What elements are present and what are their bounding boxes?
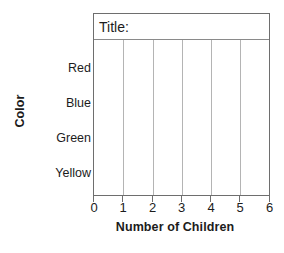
- x-tick-label-0: 0: [84, 200, 104, 216]
- x-tick-label-1: 1: [113, 200, 133, 216]
- y-axis-label-blue: Blue: [28, 96, 91, 110]
- y-axis-label-red: Red: [28, 61, 91, 75]
- y-axis-label-yellow: Yellow: [28, 166, 91, 180]
- gridline-5: [240, 40, 241, 195]
- y-axis-label-group: Red Blue Green Yellow: [28, 40, 91, 196]
- x-axis-title: Number of Children: [60, 220, 284, 234]
- x-tick-label-5: 5: [230, 200, 250, 216]
- x-axis-label-group: 0 1 2 3 4 5 6: [93, 200, 270, 218]
- gridline-3: [182, 40, 183, 195]
- y-axis-title: Color: [13, 79, 27, 143]
- title-field[interactable]: Title:: [94, 14, 269, 40]
- grid-body: [94, 40, 269, 195]
- gridline-2: [153, 40, 154, 195]
- bar-graph-worksheet: Color Red Blue Green Yellow Title: 0 1: [0, 0, 284, 253]
- x-tick-label-4: 4: [201, 200, 221, 216]
- x-tick-label-3: 3: [172, 200, 192, 216]
- gridline-4: [211, 40, 212, 195]
- title-field-label: Title:: [94, 19, 129, 35]
- plot-area: Title:: [93, 13, 270, 196]
- x-tick-label-2: 2: [143, 200, 163, 216]
- x-tick-label-6: 6: [260, 200, 280, 216]
- y-axis-label-green: Green: [28, 131, 91, 145]
- gridline-1: [123, 40, 124, 195]
